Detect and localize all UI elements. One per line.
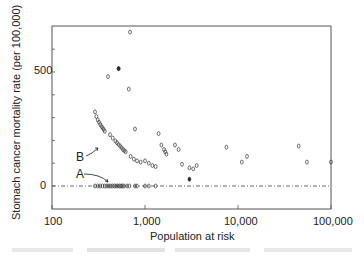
x-tick-100: 100 (44, 215, 62, 227)
x-tick-1000: 1,000 (133, 215, 161, 227)
data-point (94, 110, 97, 114)
annotation-a: A (76, 167, 84, 181)
data-point (160, 143, 163, 147)
y-axis-label: Stomach cancer mortality rate (per 100,0… (10, 40, 24, 220)
data-point (188, 177, 191, 181)
data-point (147, 161, 150, 165)
x-tick-100000: 100,000 (313, 215, 353, 227)
x-tick-10000: 10,000 (224, 215, 258, 227)
plot-frame (52, 26, 331, 209)
data-point (117, 67, 120, 71)
data-point (127, 87, 130, 91)
figure-caption-blurred (12, 248, 352, 252)
x-axis-label: Population at risk (150, 230, 234, 242)
data-point (151, 164, 154, 168)
data-point (306, 160, 309, 164)
data-point (225, 145, 228, 149)
data-point (129, 154, 132, 158)
data-point (157, 132, 160, 136)
data-point (139, 160, 142, 164)
data-point (134, 127, 137, 131)
data-point (144, 159, 147, 163)
data-point (192, 167, 195, 171)
data-point (107, 75, 110, 79)
annotation-arrows (84, 148, 108, 182)
y-tick-500: 500 (34, 64, 52, 76)
data-point (195, 164, 198, 168)
data-point (136, 159, 139, 163)
data-point (133, 157, 136, 161)
data-point (109, 133, 112, 137)
data-point (297, 144, 300, 148)
data-point (240, 160, 243, 164)
data-point (111, 136, 114, 140)
data-point (129, 30, 132, 34)
data-point (181, 162, 184, 166)
data-point (174, 143, 177, 147)
y-tick-0: 0 (40, 179, 46, 191)
data-point (177, 148, 180, 152)
data-point (246, 154, 249, 158)
annotation-b: B (76, 150, 84, 164)
x-axis-ticks (52, 205, 331, 209)
data-points (94, 30, 333, 188)
data-point (154, 165, 157, 169)
data-point (188, 166, 191, 170)
